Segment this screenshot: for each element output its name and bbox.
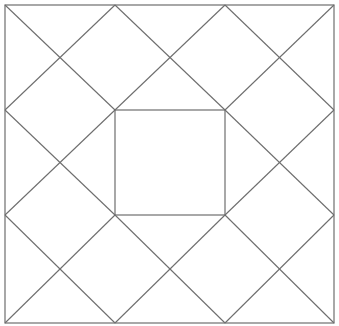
center-square <box>115 110 225 215</box>
quilt-block-diagram <box>0 0 339 326</box>
diagonal-lines <box>5 5 334 323</box>
